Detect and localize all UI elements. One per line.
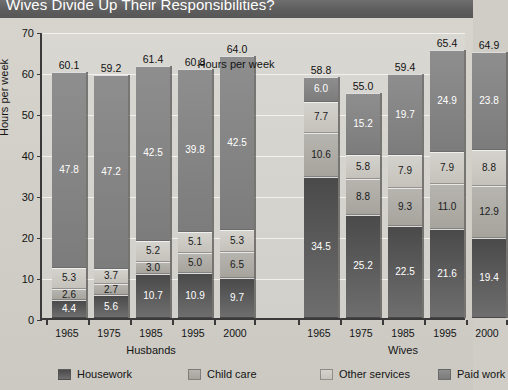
bar-segment-other[interactable]: 7.7 — [304, 102, 338, 134]
x-tick-label: 1965 — [55, 327, 78, 339]
bar-total-label: 64.0 — [227, 43, 247, 55]
bar-segment-value: 24.9 — [437, 96, 456, 106]
bar-segment-other[interactable]: 5.2 — [136, 241, 170, 262]
stacked-bar[interactable]: 6.07.710.634.558.8 — [304, 77, 338, 318]
y-tick-mark — [37, 197, 42, 198]
bar-segment-value: 2.6 — [62, 290, 76, 300]
x-tick-mark — [172, 320, 174, 325]
bar-segment-child[interactable]: 11.0 — [430, 184, 464, 229]
chart-figure: Hours per week 010203040506070 47.85.32.… — [0, 18, 473, 390]
legend-item-child[interactable]: Child care — [188, 368, 257, 380]
bar-total-label: 61.4 — [143, 53, 163, 65]
bar-total-label: 64.9 — [479, 39, 499, 51]
bar-segment-child[interactable]: 6.5 — [220, 252, 254, 279]
bar-segment-house[interactable]: 10.9 — [178, 273, 212, 318]
bar-total-label: 59.2 — [101, 62, 121, 74]
bar-segment-other[interactable]: 3.7 — [94, 269, 128, 284]
bar-segment-value: 11.0 — [438, 202, 457, 212]
y-tick-label: 10 — [4, 273, 34, 285]
bar-segment-paid[interactable]: 19.7 — [388, 74, 422, 155]
x-tick-label: 1995 — [181, 327, 204, 339]
bar-segment-value: 42.5 — [143, 148, 162, 158]
bar-segment-other[interactable]: 5.8 — [346, 155, 380, 179]
bar-segment-paid[interactable]: 39.8 — [178, 69, 212, 232]
x-tick-mark — [130, 320, 132, 325]
bar-segment-child[interactable]: 9.3 — [388, 188, 422, 226]
x-tick-label: 1965 — [307, 327, 330, 339]
stacked-bar[interactable]: 47.23.72.75.659.2 — [94, 75, 128, 318]
legend-item-paid[interactable]: Paid work — [438, 368, 505, 380]
bar-segment-house[interactable]: 9.7 — [220, 278, 254, 318]
y-tick-mark — [37, 115, 42, 116]
legend-label: Child care — [207, 368, 257, 380]
chart-legend: HouseworkChild careOther servicesPaid wo… — [0, 363, 473, 385]
bar-segment-value: 5.2 — [146, 246, 160, 256]
x-axis-label: Hours per week — [197, 58, 274, 70]
bar-segment-house[interactable]: 21.6 — [430, 229, 464, 318]
stacked-bar[interactable]: 19.77.99.322.559.4 — [388, 74, 422, 318]
bar-segment-house[interactable]: 22.5 — [388, 226, 422, 318]
bar-segment-other[interactable]: 8.8 — [472, 150, 506, 186]
bar-segment-house[interactable]: 25.2 — [346, 215, 380, 318]
y-tick-label: 60 — [4, 68, 34, 80]
bar-segment-value: 42.5 — [227, 138, 246, 148]
bar-segment-paid[interactable]: 47.8 — [52, 72, 86, 268]
bar-segment-value: 5.0 — [188, 258, 202, 268]
bar-segment-paid[interactable]: 24.9 — [430, 50, 464, 152]
bar-segment-paid[interactable]: 42.5 — [136, 66, 170, 240]
bar-total-label: 59.4 — [395, 61, 415, 73]
bar-segment-house[interactable]: 5.6 — [94, 295, 128, 318]
bar-segment-child[interactable]: 10.6 — [304, 133, 338, 176]
x-tick-mark — [254, 320, 256, 325]
plot-area: 010203040506070 47.85.32.64.460.147.23.7… — [40, 33, 465, 320]
bar-segment-child[interactable]: 5.0 — [178, 253, 212, 274]
x-axis: 19651975198519952000Husbands196519751985… — [40, 320, 465, 362]
bar-segment-child[interactable]: 2.7 — [94, 284, 128, 295]
stacked-bar[interactable]: 42.55.23.010.761.4 — [136, 66, 170, 318]
bar-segment-value: 19.7 — [395, 110, 414, 120]
bar-segment-house[interactable]: 10.7 — [136, 274, 170, 318]
bar-segment-value: 47.8 — [59, 165, 78, 175]
bar-segment-other[interactable]: 5.3 — [52, 268, 86, 290]
bar-total-label: 55.0 — [353, 80, 373, 92]
bar-segment-value: 12.9 — [479, 207, 498, 217]
bar-segment-other[interactable]: 5.3 — [220, 230, 254, 252]
legend-label: Housework — [77, 368, 132, 380]
stacked-bar[interactable]: 15.25.88.825.255.0 — [346, 93, 380, 318]
legend-label: Other services — [339, 368, 410, 380]
stacked-bar[interactable]: 39.85.15.010.960.8 — [178, 69, 212, 318]
bar-segment-paid[interactable]: 6.0 — [304, 77, 338, 102]
bar-segment-house[interactable]: 19.4 — [472, 238, 506, 318]
bar-total-label: 58.8 — [311, 64, 331, 76]
bar-segment-child[interactable]: 12.9 — [472, 186, 506, 239]
x-tick-label: 1975 — [97, 327, 120, 339]
bar-segment-child[interactable]: 3.0 — [136, 262, 170, 274]
group-label-wives: Wives — [388, 344, 418, 356]
bar-segment-value: 47.2 — [101, 167, 120, 177]
bar-segment-other[interactable]: 5.1 — [178, 232, 212, 253]
bar-segment-value: 3.7 — [104, 271, 118, 281]
bar-segment-child[interactable]: 2.6 — [52, 289, 86, 300]
bar-segment-value: 10.7 — [143, 291, 162, 301]
bar-segment-value: 19.4 — [479, 273, 498, 283]
bar-segment-value: 15.2 — [353, 119, 372, 129]
bar-segment-paid[interactable]: 15.2 — [346, 93, 380, 155]
stacked-bar[interactable]: 47.85.32.64.460.1 — [52, 72, 86, 318]
bar-segment-paid[interactable]: 23.8 — [472, 52, 506, 150]
stacked-bar[interactable]: 42.55.36.59.764.0 — [220, 56, 254, 318]
bar-segment-other[interactable]: 7.9 — [388, 155, 422, 187]
legend-item-house[interactable]: Housework — [58, 368, 132, 380]
legend-label: Paid work — [457, 368, 505, 380]
bar-segment-house[interactable]: 34.5 — [304, 177, 338, 318]
bar-total-label: 60.1 — [59, 59, 79, 71]
legend-item-other[interactable]: Other services — [320, 368, 410, 380]
bar-segment-value: 5.8 — [356, 162, 370, 172]
stacked-bar[interactable]: 23.88.812.919.464.9 — [472, 52, 506, 318]
bar-segment-child[interactable]: 8.8 — [346, 179, 380, 215]
stacked-bar[interactable]: 24.97.911.021.665.4 — [430, 50, 464, 318]
bar-segment-house[interactable]: 4.4 — [52, 300, 86, 318]
bar-segment-value: 7.7 — [314, 112, 328, 122]
bar-segment-paid[interactable]: 42.5 — [220, 56, 254, 230]
bar-segment-paid[interactable]: 47.2 — [94, 75, 128, 269]
bar-segment-other[interactable]: 7.9 — [430, 152, 464, 184]
